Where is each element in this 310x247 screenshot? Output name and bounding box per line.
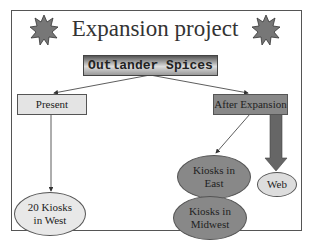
- slide-title: Expansion project: [0, 16, 310, 42]
- midwest-kiosks-node: Kiosks inMidwest: [173, 196, 247, 240]
- web-node: Web: [257, 172, 297, 197]
- block-arrow-icon: [265, 114, 287, 171]
- after-expansion-node: After Expansion: [213, 94, 288, 115]
- west-kiosks-node: 20 Kiosksin West: [14, 192, 86, 236]
- east-kiosks-node: Kiosks inEast: [177, 155, 251, 199]
- company-node: Outlander Spices: [83, 55, 218, 76]
- present-node: Present: [17, 94, 87, 115]
